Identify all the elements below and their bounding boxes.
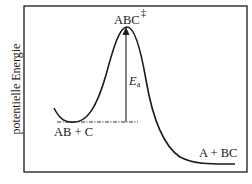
transition-state-text: ABC bbox=[114, 13, 140, 27]
activation-energy-label: Ea bbox=[129, 74, 140, 92]
products-label: A + BC bbox=[199, 146, 237, 160]
activation-energy-symbol: E bbox=[129, 74, 137, 88]
double-dagger-mark: ‡ bbox=[141, 6, 147, 18]
transition-state-label: ABC‡ bbox=[114, 8, 146, 27]
reactants-label: AB + C bbox=[54, 125, 93, 139]
activation-energy-subscript: a bbox=[137, 80, 141, 89]
y-axis-label: potentielle Energie bbox=[9, 34, 23, 144]
energy-curve bbox=[54, 27, 235, 164]
